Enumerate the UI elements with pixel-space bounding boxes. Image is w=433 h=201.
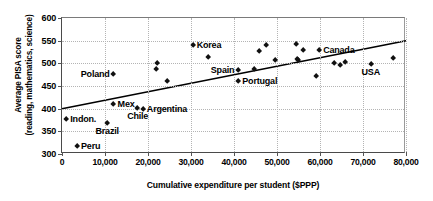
- x-axis-title: Cumulative expenditure per student ($PPP…: [61, 180, 405, 190]
- data-point-label: USA: [362, 67, 380, 77]
- x-axis-tick-label: 20,000: [135, 157, 160, 167]
- x-axis-tick-label: 70,000: [350, 157, 375, 167]
- y-axis-title-line-2: (reading, mathematics, science): [25, 0, 36, 155]
- y-axis-tick-label: 600: [42, 13, 56, 23]
- x-axis-tick-label: 10,000: [92, 157, 117, 167]
- y-axis-tick: [58, 18, 62, 19]
- x-axis-tick: [363, 152, 364, 156]
- x-axis-tick-label: 40,000: [221, 157, 246, 167]
- data-point-label: Portugal: [242, 76, 277, 86]
- y-axis-tick-label: 500: [42, 58, 56, 68]
- y-gridline: [62, 109, 404, 110]
- data-point-label: Peru: [81, 141, 100, 151]
- data-point-label: Argentina: [147, 104, 187, 114]
- x-axis-tick: [234, 152, 235, 156]
- x-axis-tick: [277, 152, 278, 156]
- y-axis-title-line-1: Average PISA score: [14, 0, 25, 155]
- x-axis-tick: [320, 152, 321, 156]
- x-axis-tick-label: 80,000: [393, 157, 418, 167]
- y-axis-tick: [58, 109, 62, 110]
- y-axis-tick-label: 350: [42, 126, 56, 136]
- y-axis-tick: [58, 63, 62, 64]
- data-point-label: Poland: [81, 69, 110, 79]
- y-axis-tick-label: 400: [42, 104, 56, 114]
- x-gridline: [406, 18, 407, 152]
- plot-area: 010,00020,00030,00040,00050,00060,00070,…: [61, 17, 405, 153]
- y-axis-tick-label: 550: [42, 36, 56, 46]
- y-axis-tick: [58, 131, 62, 132]
- x-axis-tick: [406, 152, 407, 156]
- x-axis-tick-label: 0: [60, 157, 65, 167]
- y-axis-tick-label: 300: [42, 149, 56, 159]
- x-axis-tick: [62, 152, 63, 156]
- data-point-label: Canada: [323, 45, 354, 55]
- data-point-label: Korea: [197, 40, 222, 50]
- x-axis-tick-label: 60,000: [307, 157, 332, 167]
- y-gridline: [62, 41, 404, 42]
- y-axis-tick: [58, 41, 62, 42]
- data-point-label: Chile: [127, 111, 148, 121]
- pisa-expenditure-scatter-chart: Average PISA score (reading, mathematics…: [0, 0, 433, 201]
- x-axis-tick: [148, 152, 149, 156]
- x-axis-tick: [191, 152, 192, 156]
- y-axis-title: Average PISA score (reading, mathematics…: [14, 0, 42, 155]
- y-axis-tick-label: 450: [42, 81, 56, 91]
- x-axis-tick: [105, 152, 106, 156]
- data-point-label: Indon.: [70, 114, 96, 124]
- data-point-label: Mex: [118, 99, 135, 109]
- y-axis-tick: [58, 86, 62, 87]
- x-axis-tick-label: 50,000: [264, 157, 289, 167]
- x-axis-tick-label: 30,000: [178, 157, 203, 167]
- data-point-label: Brazil: [95, 126, 118, 136]
- y-axis-tick: [58, 154, 62, 155]
- data-point-label: Spain: [211, 65, 235, 75]
- y-gridline: [62, 86, 404, 87]
